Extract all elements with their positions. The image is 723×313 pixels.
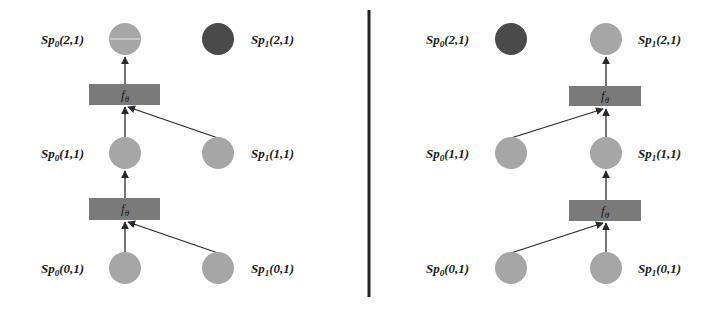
function-subscript: θ [125, 208, 130, 218]
function-box-top: fθ [569, 86, 641, 106]
node-sp0-2-1 [495, 23, 527, 55]
label-sp0-0-1: Sp0(0,1) [426, 261, 469, 278]
left-panel: fθ fθ Sp0(2,1) Sp1(2,1) Sp0(1,1) Sp1(1,1… [41, 23, 294, 284]
node-sp1-2-1 [202, 23, 234, 55]
function-subscript: θ [125, 94, 130, 104]
function-subscript: θ [605, 95, 610, 105]
node-sp0-1-1 [495, 137, 527, 169]
edge-sp1-0-to-f-bottom [128, 222, 218, 253]
label-sp0-0-1: Sp0(0,1) [41, 261, 84, 278]
label-sp1-0-1: Sp1(0,1) [638, 261, 681, 278]
label-sp0-2-1: Sp0(2,1) [41, 32, 84, 49]
node-sp1-2-1 [590, 23, 622, 55]
function-box-bottom: fθ [89, 198, 160, 220]
node-sp0-0-1 [109, 252, 141, 284]
diagram-canvas: fθ fθ Sp0(2,1) Sp1(2,1) Sp0(1,1) Sp1(1,1… [0, 0, 723, 313]
function-box-top: fθ [89, 84, 160, 105]
function-box-bottom: fθ [569, 200, 641, 221]
edge-sp1-1-1-to-f-top [128, 107, 218, 138]
label-sp0-1-1: Sp0(1,1) [426, 146, 469, 163]
node-sp1-1-1 [590, 137, 622, 169]
label-sp1-1-1: Sp1(1,1) [251, 146, 294, 163]
node-sp1-0-1 [202, 252, 234, 284]
label-sp0-2-1: Sp0(2,1) [426, 32, 469, 49]
edge-sp0-1-1-to-f-top [511, 109, 603, 138]
right-panel: fθ fθ Sp0(2,1) Sp1(2,1) Sp0(1,1) Sp1(1,1… [426, 23, 681, 284]
node-sp1-0-1 [590, 252, 622, 284]
label-sp0-1-1: Sp0(1,1) [41, 146, 84, 163]
edge-sp0-0-1-to-f-bottom [511, 223, 603, 253]
label-sp1-2-1: Sp1(2,1) [251, 32, 294, 49]
node-sp0-1-1 [109, 137, 141, 169]
label-sp1-1-1: Sp1(1,1) [638, 146, 681, 163]
label-sp1-2-1: Sp1(2,1) [638, 32, 681, 49]
node-sp1-1-1 [202, 137, 234, 169]
label-sp1-0-1: Sp1(0,1) [251, 261, 294, 278]
function-subscript: θ [605, 210, 610, 220]
node-sp0-0-1 [495, 252, 527, 284]
